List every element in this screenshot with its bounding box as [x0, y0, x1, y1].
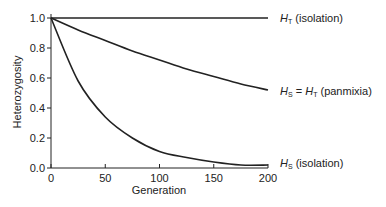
x-tick-label: 150	[205, 172, 223, 184]
y-tick-label: 0.2	[30, 132, 45, 144]
y-tick-label: 0.0	[30, 162, 45, 174]
series-labels: HT (isolation)HS = HT (panmixia)HS (isol…	[280, 12, 372, 170]
heterozygosity-chart: 0.00.20.40.60.81.0 050100150200 Generati…	[0, 0, 386, 207]
x-tick-label: 200	[259, 172, 277, 184]
label-hs-isolation: HS (isolation)	[280, 157, 343, 170]
y-tick-label: 0.6	[30, 72, 45, 84]
x-tick-label: 100	[150, 172, 168, 184]
curve-hs-isolation	[51, 18, 268, 165]
curves	[51, 18, 268, 165]
x-tick-label: 0	[48, 172, 54, 184]
y-axis-label: Heterozygosity	[11, 55, 23, 128]
label-ht-isolation: HT (isolation)	[280, 12, 343, 25]
label-panmixia: HS = HT (panmixia)	[280, 85, 372, 98]
curve-panmixia	[51, 18, 268, 90]
y-tick-label: 1.0	[30, 12, 45, 24]
x-tick-label: 50	[99, 172, 111, 184]
x-axis-label: Generation	[132, 184, 186, 196]
y-tick-label: 0.8	[30, 42, 45, 54]
x-ticks: 050100150200	[48, 164, 277, 184]
y-ticks: 0.00.20.40.60.81.0	[30, 12, 51, 174]
y-tick-label: 0.4	[30, 102, 45, 114]
